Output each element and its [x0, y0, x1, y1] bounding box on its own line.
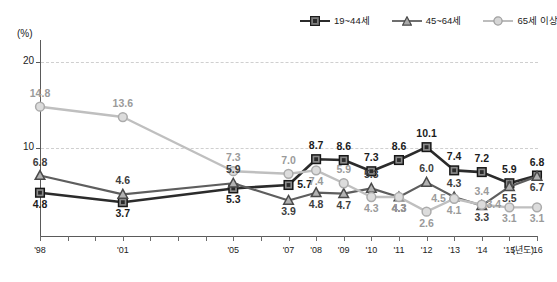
- data-label-square-98: 4.8: [33, 198, 48, 210]
- data-point-circle-10[interactable]: [367, 193, 376, 202]
- data-label-square-08: 8.7: [309, 139, 324, 151]
- data-label-triangle-98: 6.8: [33, 156, 48, 168]
- data-label-triangle-08: 4.8: [309, 198, 324, 210]
- chart-series-layer: [0, 0, 557, 282]
- data-label-circle-13: 4.1: [447, 204, 462, 216]
- data-point-inner: [397, 158, 401, 162]
- data-label-square-01: 3.7: [116, 207, 131, 219]
- data-label-triangle-16: 6.7: [530, 181, 545, 193]
- data-label-circle-10: 4.3: [364, 202, 379, 214]
- data-point-triangle-98[interactable]: [35, 171, 45, 180]
- data-point-circle-11[interactable]: [395, 193, 404, 202]
- data-label-circle-98: 14.8: [30, 87, 50, 99]
- data-label-square-15: 5.9: [502, 163, 517, 175]
- data-label-circle-12: 2.6: [419, 217, 434, 229]
- data-label-square-05: 5.3: [226, 193, 241, 205]
- data-annotation-1: 3.4: [486, 198, 501, 210]
- data-point-inner: [452, 168, 456, 172]
- data-label-triangle-09: 4.7: [336, 199, 351, 211]
- data-label-triangle-12: 6.0: [419, 162, 434, 174]
- data-label-circle-15: 3.1: [502, 212, 517, 224]
- data-label-triangle-15: 5.5: [502, 192, 517, 204]
- data-point-circle-13[interactable]: [450, 194, 459, 203]
- data-point-circle-12[interactable]: [422, 207, 431, 216]
- data-label-circle-09: 5.9: [336, 163, 351, 175]
- data-point-circle-16[interactable]: [533, 203, 542, 212]
- data-label-square-09: 8.6: [336, 140, 351, 152]
- data-point-inner: [425, 145, 429, 149]
- data-label-triangle-01: 4.6: [116, 174, 131, 186]
- data-point-circle-15[interactable]: [505, 203, 514, 212]
- data-label-square-11: 8.6: [392, 140, 407, 152]
- data-label-triangle-14: 3.3: [474, 211, 489, 223]
- data-point-inner: [287, 183, 291, 187]
- data-label-square-12: 10.1: [416, 127, 436, 139]
- data-label-circle-07: 7.0: [281, 154, 296, 166]
- data-point-inner: [314, 157, 318, 161]
- data-label-triangle-13: 4.3: [447, 177, 462, 189]
- data-label-circle-16: 3.1: [530, 212, 545, 224]
- data-point-triangle-10[interactable]: [367, 183, 377, 192]
- data-label-square-10: 7.3: [364, 151, 379, 163]
- data-label-circle-11: 4.3: [392, 202, 407, 214]
- chart-root: 19~44세 45~64세 65세 이상 (%) (년도) 1020 '98'0…: [0, 0, 557, 282]
- data-point-triangle-12[interactable]: [422, 177, 432, 186]
- data-point-inner: [38, 191, 42, 195]
- data-point-inner: [480, 170, 484, 174]
- data-annotation-0: 4.5: [431, 192, 446, 204]
- data-label-circle-01: 13.6: [113, 97, 133, 109]
- data-label-square-14: 7.2: [474, 152, 489, 164]
- data-point-circle-08[interactable]: [312, 166, 321, 175]
- data-point-inner: [342, 158, 346, 162]
- data-point-circle-09[interactable]: [339, 179, 348, 188]
- data-point-circle-98[interactable]: [36, 102, 45, 111]
- data-label-circle-14: 3.4: [474, 185, 489, 197]
- data-label-triangle-10: 5.3: [364, 168, 379, 180]
- data-point-inner: [121, 200, 125, 204]
- data-label-square-16: 6.8: [530, 156, 545, 168]
- data-label-circle-05: 7.3: [226, 151, 241, 163]
- data-point-circle-01[interactable]: [118, 113, 127, 122]
- data-label-square-13: 7.4: [447, 150, 462, 162]
- data-point-circle-07[interactable]: [284, 169, 293, 178]
- data-label-circle-08: 7.4: [309, 175, 324, 187]
- data-label-triangle-05: 5.9: [226, 163, 241, 175]
- data-label-triangle-07: 3.9: [281, 205, 296, 217]
- data-point-circle-14[interactable]: [477, 200, 486, 209]
